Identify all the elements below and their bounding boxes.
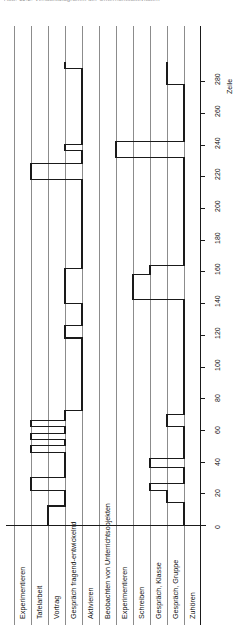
clipped-header-text: Abb. 11.2: Verlaufsdiagramm der Unterric…	[4, 0, 228, 3]
step-traces	[0, 6, 239, 626]
step-trace-0	[31, 62, 82, 525]
figure-container: Abb. 11.2: Verlaufsdiagramm der Unterric…	[0, 0, 239, 626]
plot-area: 020406080100120140160180200220240260280 …	[0, 6, 239, 626]
step-trace-1	[116, 62, 184, 525]
